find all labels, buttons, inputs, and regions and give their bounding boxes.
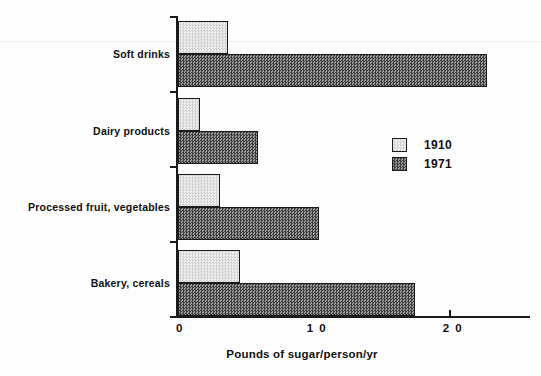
legend-swatch-1971-icon xyxy=(392,157,407,171)
value-axis-tick-label-0: 0 xyxy=(176,322,184,334)
category-label-text: Bakery, cereals xyxy=(91,277,170,289)
category-label-text: Soft drinks xyxy=(113,48,170,60)
legend-label-1971: 1971 xyxy=(424,157,452,171)
bar-processed-fruit-vegetables-1910 xyxy=(178,174,220,207)
value-axis-tick-label-1-0: 1 0 xyxy=(307,322,328,334)
category-label-text: Dairy products xyxy=(93,125,170,137)
category-label-text: Processed fruit, vegetables xyxy=(28,201,170,213)
category-axis-tick xyxy=(170,241,177,243)
scan-artifact-line xyxy=(0,41,541,42)
legend-label-1910: 1910 xyxy=(424,138,452,152)
category-label-dairy-products: Dairy products xyxy=(0,125,170,137)
bar-chart-figure: Soft drinks Dairy products Processed fru… xyxy=(0,0,541,376)
chart-legend: 1910 1971 xyxy=(392,135,452,173)
bar-processed-fruit-vegetables-1971 xyxy=(178,207,319,240)
value-axis-title: Pounds of sugar/person/yr xyxy=(226,348,377,360)
value-axis-tick-label-2-0: 2 0 xyxy=(443,322,464,334)
bar-dairy-products-1971 xyxy=(178,131,258,164)
category-label-bakery-cereals: Bakery, cereals xyxy=(0,277,170,289)
legend-item-1910: 1910 xyxy=(392,135,452,154)
category-axis-tick xyxy=(170,166,177,168)
bar-bakery-cereals-1910 xyxy=(178,250,240,283)
category-label-soft-drinks: Soft drinks xyxy=(0,48,170,60)
value-axis-tick-2-0 xyxy=(449,310,451,317)
bar-dairy-products-1910 xyxy=(178,98,200,131)
bar-bakery-cereals-1971 xyxy=(178,283,415,316)
legend-item-1971: 1971 xyxy=(392,154,452,173)
legend-swatch-1910-icon xyxy=(392,138,407,152)
category-axis-tick xyxy=(170,91,177,93)
bar-soft-drinks-1971 xyxy=(178,54,487,87)
category-label-processed-fruit-vegetables: Processed fruit, vegetables xyxy=(0,201,170,213)
category-axis-tick xyxy=(170,316,177,318)
value-axis-line xyxy=(176,316,530,318)
category-axis-tick xyxy=(170,16,177,18)
bar-soft-drinks-1910 xyxy=(178,21,228,54)
